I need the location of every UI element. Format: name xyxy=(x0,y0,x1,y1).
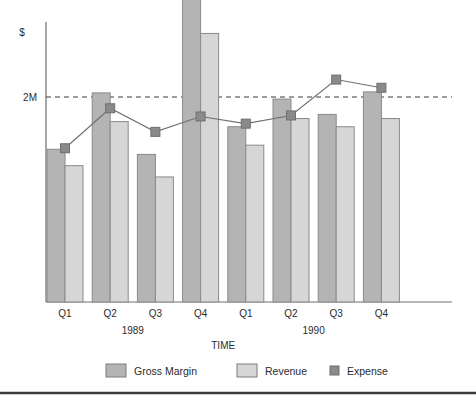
bar-revenue xyxy=(336,127,354,302)
expense-marker xyxy=(151,127,160,136)
expense-marker xyxy=(106,104,115,113)
bar-revenue xyxy=(291,119,309,302)
legend-swatch-revenue xyxy=(237,364,257,377)
x-tick-label: Q2 xyxy=(284,308,298,319)
expense-marker xyxy=(241,119,250,128)
x-axis-label: TIME xyxy=(211,340,235,351)
x-tick-label: Q3 xyxy=(330,308,344,319)
bar-gross-margin xyxy=(47,149,65,302)
expense-marker xyxy=(196,112,205,121)
bar-revenue xyxy=(381,119,399,302)
bar-gross-margin xyxy=(273,99,291,302)
bar-revenue xyxy=(201,33,219,302)
expense-marker xyxy=(287,111,296,120)
expense-marker xyxy=(332,75,341,84)
x-tick-label: Q2 xyxy=(104,308,118,319)
expense-marker xyxy=(377,83,386,92)
legend-swatch-expense xyxy=(330,366,339,375)
expense-marker xyxy=(61,144,70,153)
chart-container: $ 2M Q1Q2Q3Q4Q1Q2Q3Q4 1989 1990 TIME Gro… xyxy=(0,0,476,399)
group-label-1989: 1989 xyxy=(122,325,145,336)
x-tick-label: Q1 xyxy=(58,308,72,319)
bar-gross-margin xyxy=(318,114,336,302)
bar-gross-margin xyxy=(183,0,201,302)
legend-swatch-gross-margin xyxy=(106,364,126,377)
legend-label-gross-margin: Gross Margin xyxy=(134,365,197,377)
bar-gross-margin xyxy=(137,154,155,302)
bar-gross-margin xyxy=(228,127,246,302)
x-tick-label: Q4 xyxy=(194,308,208,319)
y-tick-label-2m: 2M xyxy=(23,92,37,103)
bar-line-combo-chart: $ 2M Q1Q2Q3Q4Q1Q2Q3Q4 1989 1990 TIME Gro… xyxy=(0,0,476,399)
bar-revenue xyxy=(65,166,83,302)
bar-revenue xyxy=(110,122,128,302)
legend-label-expense: Expense xyxy=(347,365,388,377)
group-label-1990: 1990 xyxy=(302,325,325,336)
x-tick-label: Q3 xyxy=(149,308,163,319)
bar-gross-margin xyxy=(92,93,110,302)
bar-revenue xyxy=(155,177,173,302)
bar-gross-margin xyxy=(363,92,381,302)
bar-revenue xyxy=(246,145,264,302)
legend-label-revenue: Revenue xyxy=(265,365,307,377)
y-axis-label: $ xyxy=(19,27,25,38)
x-tick-label: Q1 xyxy=(239,308,253,319)
x-tick-label: Q4 xyxy=(375,308,389,319)
